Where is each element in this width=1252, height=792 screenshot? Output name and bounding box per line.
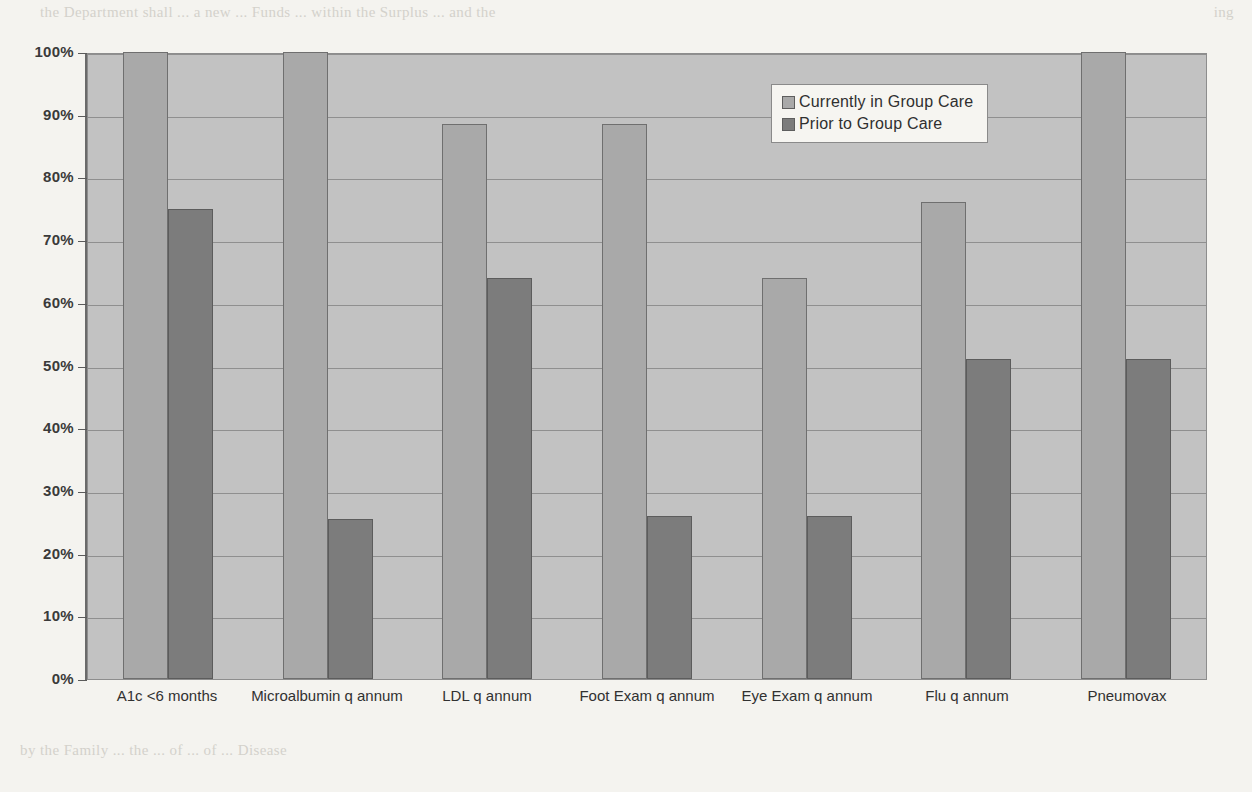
- y-tick-mark: [78, 555, 87, 556]
- y-tick-mark: [78, 178, 87, 179]
- background-text-top-right: ing: [1214, 4, 1234, 21]
- legend-label: Currently in Group Care: [799, 93, 973, 111]
- x-axis-label: Microalbumin q annum: [247, 686, 407, 705]
- x-axis-label: Flu q annum: [887, 686, 1047, 705]
- y-tick-mark: [78, 492, 87, 493]
- bar-group: [407, 54, 567, 679]
- y-tick-label: 40%: [43, 419, 74, 436]
- bar-group: [887, 54, 1047, 679]
- bar-group: [248, 54, 408, 679]
- bar[interactable]: [442, 124, 487, 679]
- bar[interactable]: [602, 124, 647, 679]
- y-tick-label: 100%: [34, 43, 74, 60]
- x-axis-label: LDL q annum: [407, 686, 567, 705]
- bar[interactable]: [1081, 52, 1126, 679]
- bar[interactable]: [647, 516, 692, 679]
- x-axis-label: Pneumovax: [1047, 686, 1207, 705]
- legend-item: Prior to Group Care: [782, 113, 973, 135]
- bar[interactable]: [123, 52, 168, 679]
- y-tick-label: 30%: [43, 482, 74, 499]
- y-tick-label: 10%: [43, 607, 74, 624]
- y-tick-label: 70%: [43, 231, 74, 248]
- legend-swatch-icon: [782, 96, 795, 109]
- x-axis-label: A1c <6 months: [87, 686, 247, 705]
- y-tick-mark: [78, 680, 87, 681]
- bar-group: [1046, 54, 1206, 679]
- bar-group: [567, 54, 727, 679]
- y-axis: 100% 90% 80% 70% 60% 50%: [0, 53, 87, 681]
- bar-groups: [88, 54, 1206, 679]
- y-tick-label: 80%: [43, 168, 74, 185]
- bar-group: [727, 54, 887, 679]
- bar[interactable]: [283, 52, 328, 679]
- bar[interactable]: [807, 516, 852, 679]
- y-tick-label: 20%: [43, 545, 74, 562]
- background-text-top: the Department shall ... a new ... Funds…: [40, 4, 496, 21]
- y-tick-label: 0%: [52, 670, 74, 687]
- y-tick-mark: [78, 241, 87, 242]
- bar[interactable]: [328, 519, 373, 679]
- background-text-bottom: by the Family ... the ... of ... of ... …: [20, 742, 287, 759]
- chart-legend: Currently in Group Care Prior to Group C…: [771, 84, 988, 143]
- chart-page: the Department shall ... a new ... Funds…: [0, 0, 1252, 792]
- bar[interactable]: [921, 202, 966, 679]
- y-tick-label: 50%: [43, 357, 74, 374]
- y-tick-label: 90%: [43, 106, 74, 123]
- x-axis-labels: A1c <6 monthsMicroalbumin q annumLDL q a…: [87, 686, 1207, 705]
- y-tick-label: 60%: [43, 294, 74, 311]
- y-tick-mark: [78, 116, 87, 117]
- y-tick-mark: [78, 304, 87, 305]
- y-tick-mark: [78, 617, 87, 618]
- legend-swatch-icon: [782, 118, 795, 131]
- chart-plot-area: [87, 53, 1207, 680]
- bar[interactable]: [966, 359, 1011, 679]
- legend-label: Prior to Group Care: [799, 115, 942, 133]
- bar[interactable]: [1126, 359, 1171, 679]
- bar[interactable]: [762, 278, 807, 679]
- bar[interactable]: [487, 278, 532, 679]
- bar-group: [88, 54, 248, 679]
- x-axis-label: Eye Exam q annum: [727, 686, 887, 705]
- y-tick-mark: [78, 367, 87, 368]
- x-axis-label: Foot Exam q annum: [567, 686, 727, 705]
- bar[interactable]: [168, 209, 213, 679]
- y-tick-mark: [78, 53, 87, 54]
- legend-item: Currently in Group Care: [782, 91, 973, 113]
- y-tick-mark: [78, 429, 87, 430]
